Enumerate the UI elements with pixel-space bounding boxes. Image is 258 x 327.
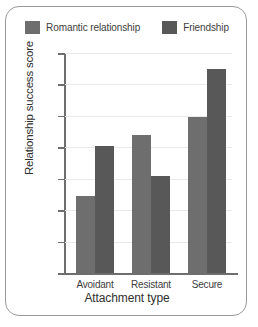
x-axis-category-label: Resistant [120, 279, 182, 290]
bar [132, 135, 151, 273]
bar [76, 196, 95, 273]
x-axis-category-label: Avoidant [64, 279, 126, 290]
axis-area: 010203040506070 AvoidantResistantSecure [64, 53, 232, 273]
x-axis-line [58, 273, 238, 275]
chart-figure: Romantic relationship Friendship Relatio… [5, 6, 247, 316]
bar [207, 69, 226, 273]
x-axis-category-label: Secure [176, 279, 238, 290]
y-axis-tick [58, 273, 64, 275]
bar-series-layer [64, 53, 232, 273]
bar [188, 117, 207, 273]
bar [95, 146, 114, 273]
y-axis-title: Relationship success score [23, 18, 35, 198]
bar [151, 176, 170, 273]
plot-wrap: Relationship success score 0102030405060… [6, 7, 247, 316]
x-axis-title: Attachment type [6, 291, 247, 305]
